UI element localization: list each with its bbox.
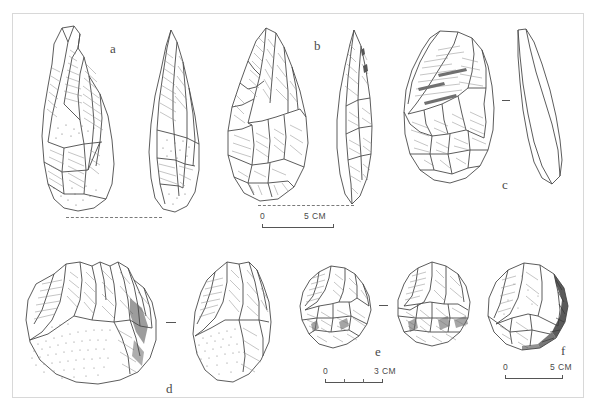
artifact-label-e: e <box>375 344 381 360</box>
scale-bar-3cm-bottom: 0 3 CM <box>325 368 403 390</box>
artifact-d-join-bar <box>166 322 176 323</box>
scale-bar-5cm-bottom: 0 5 CM <box>505 364 575 386</box>
scale-tick-1 <box>344 379 345 383</box>
artifact-label-b: b <box>314 38 321 54</box>
artifact-label-f: f <box>561 343 566 359</box>
artifact-c-view1 <box>398 28 504 192</box>
scale-max-label-5cm-bottom: 5 CM <box>550 362 572 372</box>
artifact-label-c: c <box>502 177 508 193</box>
baseline-dash-b <box>258 205 354 206</box>
artifact-b-view1 <box>218 25 323 210</box>
artifact-label-a: a <box>110 41 116 57</box>
artifact-b-view2 <box>330 28 380 210</box>
scale-zero-label-5cm-bottom: 0 <box>503 362 508 372</box>
scale-zero-label-top: 0 <box>260 211 265 221</box>
artifact-d-view2 <box>185 258 277 386</box>
scale-bar-line-5cm-bottom <box>505 375 563 379</box>
scale-bar-5cm-top: 0 5 CM <box>262 213 338 235</box>
scale-bar-line-3cm <box>325 379 383 383</box>
scale-tick-2 <box>363 379 364 383</box>
scale-max-label-top: 5 CM <box>304 211 326 221</box>
artifact-e-join-bar <box>379 305 388 306</box>
artifact-c-join-bar <box>502 100 510 101</box>
artifact-d-view1 <box>18 258 163 386</box>
artifact-f-view1 <box>482 260 574 356</box>
lithic-illustration-plate: a <box>0 0 596 412</box>
scale-zero-label-3cm: 0 <box>323 366 328 376</box>
artifact-a-view2 <box>133 28 211 218</box>
scale-max-label-3cm: 3 CM <box>374 366 396 376</box>
artifact-c-view2 <box>512 26 568 192</box>
baseline-dash-a <box>66 217 162 218</box>
artifact-label-d: d <box>166 381 173 397</box>
scale-bar-line-top <box>262 224 334 228</box>
artifact-e-view1 <box>295 262 377 354</box>
artifact-e-view2 <box>392 258 476 354</box>
